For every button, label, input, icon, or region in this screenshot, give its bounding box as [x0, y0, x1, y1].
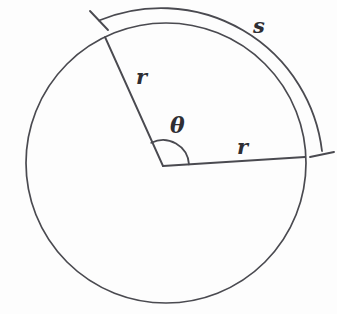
- circle-arc-diagram: r r θ s: [0, 0, 337, 314]
- arc-start-tick-icon: [90, 11, 108, 30]
- label-radius-upper: r: [136, 66, 147, 87]
- radius-line-upper-left: [105, 37, 163, 166]
- diagram-canvas: [0, 0, 337, 314]
- circle-outline: [26, 23, 306, 303]
- label-arc-length-s: s: [253, 15, 265, 36]
- radius-line-right: [163, 157, 305, 166]
- label-radius-right: r: [237, 136, 248, 157]
- label-central-angle-theta: θ: [170, 114, 185, 136]
- arc-end-tick-icon: [310, 152, 334, 157]
